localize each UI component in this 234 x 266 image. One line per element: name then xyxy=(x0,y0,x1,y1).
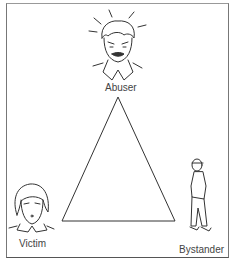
victim-label: Victim xyxy=(19,238,46,249)
victim-figure-icon xyxy=(9,184,54,232)
diagram-canvas: Abuser Victim Bystander xyxy=(0,0,234,266)
diagram-artwork xyxy=(0,0,234,266)
triangle-shape xyxy=(62,97,175,221)
bystander-label: Bystander xyxy=(179,244,224,255)
abuser-label: Abuser xyxy=(105,82,137,93)
abuser-figure-icon xyxy=(89,10,146,80)
bystander-figure-icon xyxy=(190,159,211,231)
